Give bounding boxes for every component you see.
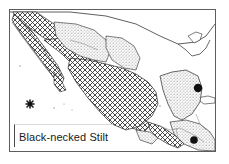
range-map-figure: Black-necked Stilt bbox=[0, 0, 229, 164]
dot-central-america bbox=[190, 136, 198, 144]
map-frame: Black-necked Stilt bbox=[9, 9, 216, 152]
species-name-label: Black-necked Stilt bbox=[19, 131, 108, 143]
star-pacific-island bbox=[26, 100, 34, 108]
dot-yucatan-east bbox=[194, 84, 202, 92]
caption-box: Black-necked Stilt bbox=[14, 124, 113, 147]
